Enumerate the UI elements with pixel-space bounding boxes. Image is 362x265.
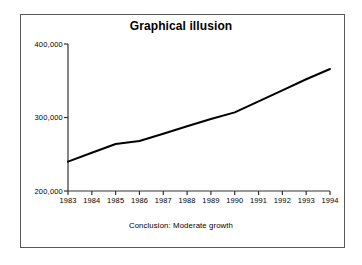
x-tick-label-1987: 1987 [155,196,172,205]
y-tick-label-200000: 200,000 [34,187,63,196]
x-tick-label-1990: 1990 [226,196,243,205]
x-axis-tick-labels: 1983198419851986198719881989199019911992… [68,196,330,210]
plot-area [68,44,330,191]
x-tick-label-1992: 1992 [274,196,291,205]
x-tick-label-1984: 1984 [83,196,100,205]
x-tick-label-1985: 1985 [107,196,124,205]
chart-caption: Conclusion: Moderate growth [0,221,362,230]
chart-screenshot: Graphical illusion 400,000 300,000 200,0… [0,0,362,265]
y-tick-label-300000: 300,000 [34,113,63,122]
x-tick-label-1993: 1993 [298,196,315,205]
x-tick-label-1994: 1994 [321,196,338,205]
axis-lines [68,44,330,191]
x-tick-label-1986: 1986 [131,196,148,205]
x-tick-label-1983: 1983 [59,196,76,205]
x-tick-label-1989: 1989 [202,196,219,205]
chart-canvas [68,44,330,191]
y-tick-label-400000: 400,000 [34,40,63,49]
data-series-line [68,69,330,162]
x-tick-label-1988: 1988 [179,196,196,205]
x-tick-label-1991: 1991 [250,196,267,205]
